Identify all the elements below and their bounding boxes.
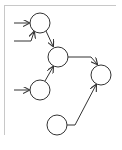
edge-n5-n4 — [67, 85, 96, 125]
node-n1 — [30, 13, 50, 33]
node-n4 — [91, 65, 111, 85]
edge-n3-n2 — [45, 67, 53, 81]
node-n2 — [48, 47, 68, 67]
edge-input-2 — [14, 32, 34, 41]
graph-diagram — [0, 0, 122, 150]
edge-n2-n4 — [68, 57, 97, 64]
node-n5 — [47, 115, 67, 135]
node-n3 — [30, 80, 50, 100]
edge-n1-n2 — [46, 31, 53, 46]
